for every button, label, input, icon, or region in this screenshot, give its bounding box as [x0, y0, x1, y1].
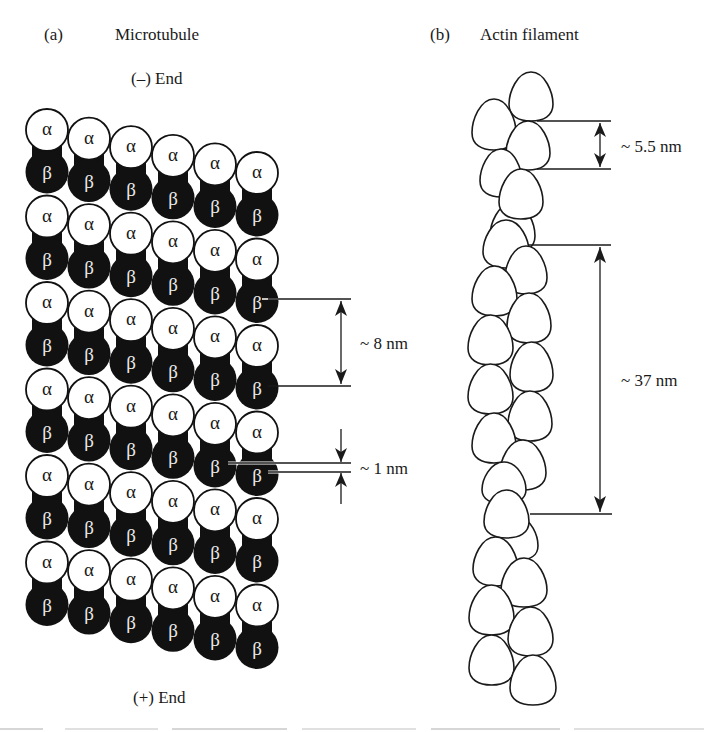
- actin-monomer: [510, 655, 556, 705]
- actin-monomer: [468, 364, 513, 414]
- actin-monomer: [468, 315, 513, 365]
- actin-monomer: [510, 342, 553, 392]
- actin-monomer: [469, 635, 514, 685]
- cytoskeleton-figure: (a) Microtubule (–) End (+) End (b) Acti…: [0, 0, 718, 732]
- actin-monomer: [508, 607, 553, 656]
- actin-monomer: [509, 72, 553, 121]
- cut-off-caption: [0, 726, 718, 732]
- actin-filament: [0, 0, 718, 732]
